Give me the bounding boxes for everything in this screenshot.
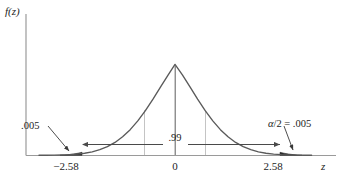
- y-axis-label: f(z): [5, 6, 20, 17]
- tick-label-zero: 0: [147, 161, 203, 172]
- distribution-plot: [0, 0, 349, 183]
- tick-label-positive: 2.58: [245, 161, 301, 172]
- left-tail-leader: [48, 126, 69, 151]
- right-tail-leader: [284, 126, 293, 150]
- tick-label-negative: −2.58: [38, 161, 94, 172]
- alpha-value-text: /2 = .005: [274, 118, 312, 129]
- normal-distribution-figure: f(z) z −2.58 0 2.58 .005 α/2 = .005 .99: [0, 0, 349, 183]
- left-tail-label: .005: [21, 121, 39, 132]
- right-tail-label: α/2 = .005: [268, 119, 311, 130]
- confidence-level-label: .99: [150, 133, 200, 144]
- x-axis-label: z: [321, 161, 325, 172]
